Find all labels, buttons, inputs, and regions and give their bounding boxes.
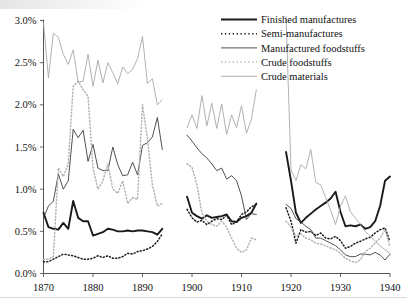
y-tick-label: 2.0% bbox=[15, 99, 37, 110]
y-tick-label: 1.0% bbox=[15, 184, 37, 195]
series-line-segment bbox=[187, 90, 256, 135]
series-line-segment bbox=[286, 221, 390, 262]
y-axis-tick-labels: 0.0%0.5%1.0%1.5%2.0%2.5%3.0% bbox=[15, 15, 37, 279]
x-tick-label: 1940 bbox=[380, 282, 401, 293]
y-tick-label: 0.0% bbox=[15, 268, 37, 279]
x-tick-label: 1880 bbox=[83, 282, 104, 293]
series-semi-manufactures bbox=[44, 204, 391, 261]
x-tick-label: 1870 bbox=[33, 282, 54, 293]
page-bottom-rule bbox=[0, 297, 407, 298]
y-tick-label: 3.0% bbox=[15, 15, 37, 26]
x-tick-label: 1910 bbox=[231, 282, 252, 293]
line-chart: 0.0%0.5%1.0%1.5%2.0%2.5%3.0% 18701880189… bbox=[0, 0, 407, 302]
legend-label: Finished manufactures bbox=[261, 14, 356, 25]
series-line-segment bbox=[187, 135, 256, 219]
x-tick-label: 1900 bbox=[182, 282, 203, 293]
y-tick-label: 1.5% bbox=[15, 142, 37, 153]
legend-label: Crude foodstuffs bbox=[261, 57, 332, 68]
series-line-segment bbox=[44, 201, 163, 236]
series-line-segment bbox=[286, 152, 390, 229]
y-tick-label: 2.5% bbox=[15, 57, 37, 68]
page-top-artifact bbox=[0, 0, 210, 9]
series-finished-manufactures bbox=[44, 152, 391, 235]
legend-label: Crude materials bbox=[261, 71, 328, 82]
series-line-segment bbox=[44, 117, 163, 217]
x-tick-label: 1930 bbox=[330, 282, 351, 293]
series-line-segment bbox=[286, 204, 390, 260]
x-tick-label: 1920 bbox=[281, 282, 302, 293]
chart-legend: Finished manufacturesSemi-manufacturesMa… bbox=[221, 14, 365, 82]
series-line-segment bbox=[44, 23, 163, 105]
x-axis-tick-labels: 18701880189019001910192019301940 bbox=[33, 282, 401, 293]
y-tick-label: 0.5% bbox=[15, 226, 37, 237]
chart-container: 0.0%0.5%1.0%1.5%2.0%2.5%3.0% 18701880189… bbox=[0, 0, 407, 302]
series-line-segment bbox=[187, 164, 256, 253]
x-tick-label: 1890 bbox=[132, 282, 153, 293]
legend-label: Semi-manufactures bbox=[261, 28, 343, 39]
legend-label: Manufactured foodstuffs bbox=[261, 43, 365, 54]
series-line-segment bbox=[44, 234, 163, 262]
